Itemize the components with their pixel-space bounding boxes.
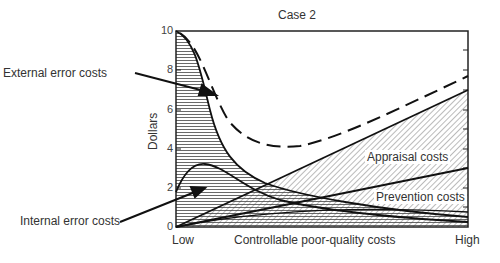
y-tick-4: 4: [167, 142, 173, 154]
internal-error-label: Internal error costs: [20, 214, 120, 228]
x-axis-label: Controllable poor-quality costs: [234, 233, 395, 247]
x-tick-low: Low: [172, 233, 194, 247]
appraisal-label: Appraisal costs: [365, 150, 450, 164]
x-tick-high: High: [455, 233, 480, 247]
chart-title: Case 2: [278, 8, 316, 22]
y-tick-10: 10: [161, 24, 173, 36]
y-axis-label: Dollars: [146, 113, 160, 150]
y-tick-0: 0: [167, 220, 173, 232]
y-tick-6: 6: [167, 103, 173, 115]
y-tick-8: 8: [167, 63, 173, 75]
prevention-label: Prevention costs: [374, 190, 467, 204]
y-tick-2: 2: [167, 181, 173, 193]
external-error-label: External error costs: [3, 66, 107, 80]
